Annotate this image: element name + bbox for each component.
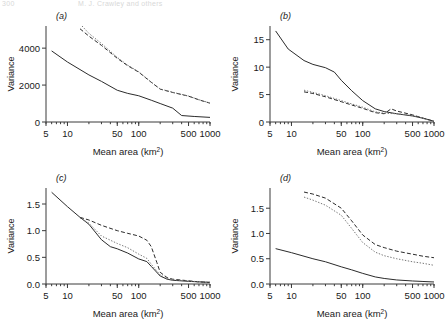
panel-c: 5105010050010000.00.51.01.5VarianceMean …: [0, 168, 224, 330]
series-dotted: [80, 218, 210, 282]
svg-text:500: 500: [405, 128, 421, 139]
svg-text:100: 100: [131, 128, 147, 139]
svg-text:500: 500: [181, 290, 197, 301]
panel-d: 5105010050010000.00.51.01.5VarianceMean …: [224, 168, 448, 330]
chart-c: 5105010050010000.00.51.01.5VarianceMean …: [0, 168, 224, 330]
svg-text:1000: 1000: [199, 128, 220, 139]
svg-text:50: 50: [112, 290, 123, 301]
svg-text:0.0: 0.0: [27, 279, 40, 290]
svg-text:1.0: 1.0: [27, 225, 40, 236]
svg-text:50: 50: [336, 290, 347, 301]
svg-text:Variance: Variance: [6, 219, 16, 254]
svg-text:0: 0: [35, 117, 40, 128]
panel-a: 510501005001000020004000VarianceMean are…: [0, 6, 224, 168]
chart-a: 510501005001000020004000VarianceMean are…: [0, 6, 224, 168]
svg-text:(b): (b): [280, 11, 291, 21]
svg-text:500: 500: [405, 290, 421, 301]
series-dashed: [80, 29, 210, 103]
chart-b: 510501005001000051015VarianceMean area (…: [224, 6, 448, 168]
svg-text:Mean area (km2): Mean area (km2): [317, 146, 388, 158]
svg-text:Variance: Variance: [230, 57, 240, 92]
svg-text:5: 5: [267, 128, 272, 139]
svg-text:10: 10: [62, 128, 73, 139]
svg-text:15: 15: [253, 34, 264, 45]
series-solid: [52, 51, 210, 117]
svg-text:0.5: 0.5: [27, 252, 40, 263]
chart-d: 5105010050010000.00.51.01.5VarianceMean …: [224, 168, 448, 330]
svg-text:Variance: Variance: [230, 219, 240, 254]
svg-text:1000: 1000: [423, 290, 444, 301]
series-solid: [52, 192, 210, 282]
svg-text:10: 10: [62, 290, 73, 301]
series-dashed: [80, 217, 210, 282]
svg-text:(a): (a): [56, 11, 67, 21]
svg-text:Variance: Variance: [6, 57, 16, 92]
svg-text:10: 10: [253, 62, 264, 73]
svg-text:1000: 1000: [423, 128, 444, 139]
svg-text:(c): (c): [56, 173, 67, 183]
svg-text:500: 500: [181, 128, 197, 139]
svg-text:Mean area (km2): Mean area (km2): [93, 308, 164, 320]
svg-text:4000: 4000: [19, 43, 40, 54]
svg-text:1.5: 1.5: [251, 203, 264, 214]
svg-text:Mean area (km2): Mean area (km2): [317, 308, 388, 320]
panel-b: 510501005001000051015VarianceMean area (…: [224, 6, 448, 168]
svg-text:1.0: 1.0: [251, 228, 264, 239]
series-solid: [276, 31, 434, 121]
series-dashed: [304, 92, 434, 122]
svg-text:50: 50: [112, 128, 123, 139]
svg-text:100: 100: [131, 290, 147, 301]
svg-text:10: 10: [286, 290, 297, 301]
svg-text:10: 10: [286, 128, 297, 139]
svg-text:0.5: 0.5: [251, 253, 264, 264]
svg-text:5: 5: [43, 290, 48, 301]
svg-text:1.5: 1.5: [27, 199, 40, 210]
svg-text:2000: 2000: [19, 80, 40, 91]
svg-text:0: 0: [259, 117, 264, 128]
figure-container: 300 M. J. Crawley and others 51050100500…: [0, 0, 448, 333]
svg-text:Mean area (km2): Mean area (km2): [93, 146, 164, 158]
svg-text:(d): (d): [280, 173, 291, 183]
series-dotted: [82, 26, 210, 103]
svg-text:100: 100: [355, 128, 371, 139]
svg-text:5: 5: [43, 128, 48, 139]
svg-text:100: 100: [355, 290, 371, 301]
svg-text:50: 50: [336, 128, 347, 139]
svg-text:5: 5: [259, 89, 264, 100]
svg-text:0.0: 0.0: [251, 279, 264, 290]
svg-text:5: 5: [267, 290, 272, 301]
svg-text:1000: 1000: [199, 290, 220, 301]
